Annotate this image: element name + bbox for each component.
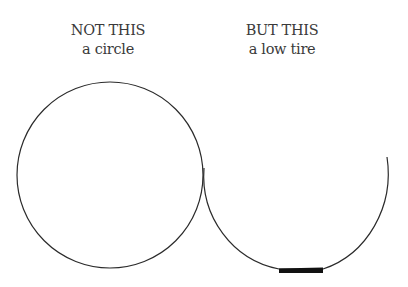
circle-shape bbox=[17, 82, 203, 268]
low-tire-arc bbox=[204, 157, 389, 269]
diagram-canvas bbox=[0, 0, 408, 287]
tire-contact-patch bbox=[279, 268, 323, 274]
